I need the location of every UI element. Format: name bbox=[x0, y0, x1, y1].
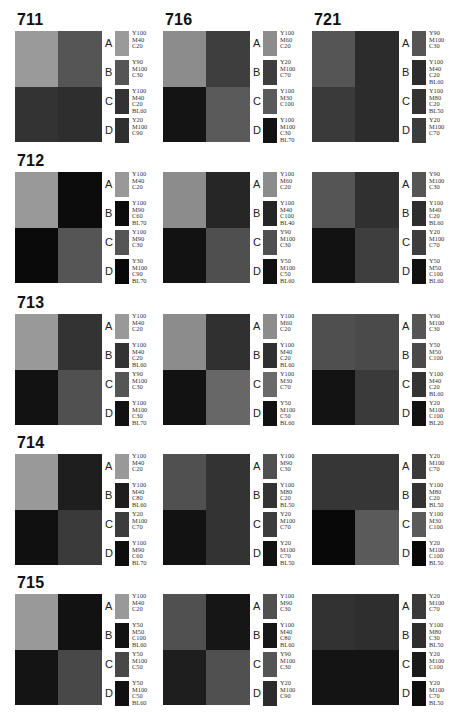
color-code: Y100 M40 C100 BL40 bbox=[280, 200, 295, 226]
legend-row-b: BY100 M40 C80 BL60 bbox=[105, 483, 165, 509]
legend-row-a: AY100 M40 C20 bbox=[105, 594, 165, 620]
legend-letter: A bbox=[402, 178, 409, 190]
color-swatch bbox=[115, 314, 129, 339]
color-panel-713: 713 AY100 M40 C20BY100 M40 C20 BL60CY90 … bbox=[15, 297, 160, 437]
color-code: Y50 M50 C100 BL60 bbox=[132, 622, 147, 648]
color-swatch bbox=[412, 201, 426, 226]
color-code: Y100 M60 C20 bbox=[280, 313, 294, 333]
legend-letter: A bbox=[105, 460, 112, 472]
legend-letter: D bbox=[402, 687, 410, 699]
grid-cell-c bbox=[163, 510, 206, 565]
legend-letter: D bbox=[105, 124, 113, 136]
legend-row-d: DY20 M100 C90 bbox=[253, 681, 313, 707]
legend-letter: B bbox=[105, 629, 112, 641]
color-code: Y100 M40 C80 BL60 bbox=[280, 622, 295, 648]
color-swatch bbox=[115, 60, 129, 85]
color-code: Y100 M90 C30 bbox=[280, 453, 294, 473]
legend: AY90 M100 C30BY100 M40 C20 BL60CY20 M100… bbox=[402, 172, 455, 283]
legend-row-b: BY20 M100 C70 bbox=[253, 60, 313, 86]
color-swatch bbox=[412, 372, 426, 397]
legend-row-c: CY50 M100 C50 bbox=[105, 652, 165, 678]
grid-cell-c bbox=[163, 370, 206, 425]
grid-cell-b bbox=[58, 454, 102, 510]
grid-cell-d bbox=[355, 510, 399, 565]
color-code: Y20 M100 C70 bbox=[429, 453, 444, 473]
legend-row-a: AY20 M100 C70 bbox=[402, 594, 455, 620]
grid-cell-c bbox=[163, 650, 206, 705]
color-code: Y100 M40 C20 BL60 bbox=[132, 88, 147, 114]
legend-letter: A bbox=[402, 37, 409, 49]
legend-letter: C bbox=[253, 236, 261, 248]
legend-row-d: DY50 M100 C50 BL60 bbox=[253, 259, 313, 285]
grid-cell-d bbox=[206, 510, 250, 565]
legend-letter: C bbox=[402, 95, 410, 107]
legend-letter: C bbox=[402, 378, 410, 390]
legend-letter: B bbox=[253, 207, 260, 219]
legend-row-b: BY100 M40 C20 BL60 bbox=[253, 343, 313, 369]
legend-letter: A bbox=[105, 320, 112, 332]
legend-row-d: DY50 M50 C100 BL60 bbox=[402, 259, 455, 285]
grid-cell-a bbox=[15, 454, 58, 510]
color-code: Y100 M40 C20 bbox=[132, 313, 146, 333]
legend-row-a: AY100 M60 C20 bbox=[253, 314, 313, 340]
color-code: Y100 M90 C30 bbox=[132, 229, 146, 249]
legend-letter: C bbox=[402, 518, 410, 530]
legend-letter: C bbox=[105, 236, 113, 248]
color-swatch bbox=[412, 230, 426, 255]
color-swatch bbox=[263, 483, 277, 508]
color-swatch bbox=[412, 89, 426, 114]
color-swatch bbox=[115, 541, 129, 566]
color-code: Y50 M100 C50 BL60 bbox=[280, 400, 295, 426]
legend-letter: D bbox=[402, 265, 410, 277]
color-code: Y20 M100 C70 bbox=[429, 593, 444, 613]
color-panel-716d: AY100 M90 C30BY100 M80 C20 BL50CY20 M100… bbox=[163, 437, 308, 577]
color-swatch bbox=[263, 89, 277, 114]
color-code: Y20 M100 C100 bbox=[429, 651, 444, 671]
grid-cell-d bbox=[355, 87, 399, 142]
legend-row-c: CY100 M40 C20 BL60 bbox=[105, 89, 165, 115]
color-swatch bbox=[412, 512, 426, 537]
grid-cell-c bbox=[15, 228, 58, 283]
legend-letter: D bbox=[402, 407, 410, 419]
legend-letter: A bbox=[402, 460, 409, 472]
grid-cell-a bbox=[163, 454, 206, 510]
color-code: Y100 M80 C30 BL50 bbox=[429, 622, 444, 648]
color-swatch bbox=[263, 118, 277, 143]
color-swatch bbox=[263, 454, 277, 479]
color-swatch bbox=[263, 512, 277, 537]
color-swatch bbox=[412, 314, 426, 339]
color-swatch bbox=[412, 118, 426, 143]
color-swatch bbox=[412, 623, 426, 648]
color-code: Y100 M40 C20 BL60 bbox=[132, 342, 147, 368]
legend-row-b: BY90 M100 C30 bbox=[105, 60, 165, 86]
legend-letter: A bbox=[253, 178, 260, 190]
color-swatch bbox=[263, 594, 277, 619]
grid-cell-d bbox=[58, 228, 102, 283]
legend-row-b: BY100 M90 C60 BL70 bbox=[105, 201, 165, 227]
color-code: Y100 M100 C30 BL70 bbox=[132, 400, 147, 426]
grid-cell-c bbox=[15, 370, 58, 425]
color-swatch bbox=[263, 681, 277, 706]
color-code: Y100 M40 C20 bbox=[132, 30, 146, 50]
color-swatch bbox=[115, 259, 129, 284]
legend-letter: A bbox=[402, 600, 409, 612]
legend-row-b: BY100 M40 C100 BL40 bbox=[253, 201, 313, 227]
legend-row-c: CY20 M100 C70 bbox=[402, 230, 455, 256]
color-swatch bbox=[115, 201, 129, 226]
grid-cell-b bbox=[206, 172, 250, 228]
color-panel-712: 712 AY100 M40 C20BY100 M90 C60 BL70CY100… bbox=[15, 155, 160, 295]
grid-cell-a bbox=[312, 454, 355, 510]
grid-cell-d bbox=[355, 650, 399, 705]
legend-row-d: DY20 M100 C100 BL50 bbox=[402, 541, 455, 567]
color-code: Y100 M60 C20 bbox=[280, 30, 294, 50]
legend: AY20 M100 C70BY100 M80 C30 BL50CY20 M100… bbox=[402, 594, 455, 705]
color-code: Y100 M40 C20 BL60 bbox=[429, 371, 444, 397]
color-swatch bbox=[263, 201, 277, 226]
grid-cell-a bbox=[15, 31, 58, 87]
color-swatch bbox=[263, 541, 277, 566]
color-code: Y100 M40 C20 BL60 bbox=[280, 342, 295, 368]
grid-cell-a bbox=[15, 172, 58, 228]
color-panel-721d: AY20 M100 C70BY100 M80 C20 BL50CY100 M30… bbox=[312, 437, 455, 577]
legend-letter: D bbox=[253, 265, 261, 277]
grid-cell-a bbox=[163, 31, 206, 87]
